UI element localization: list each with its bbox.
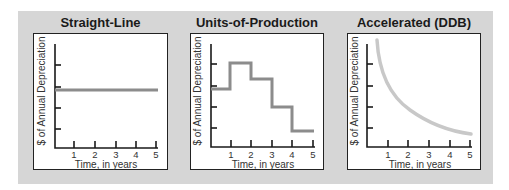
plot-area: $ of Annual Depreciation 1 2 3 xyxy=(347,33,481,170)
x-ticks xyxy=(231,140,313,147)
units-of-production-series xyxy=(211,63,314,131)
chart-title: Units-of-Production xyxy=(190,15,324,30)
plot-area: $ of Annual Depreciation 1 2 3 xyxy=(190,33,324,170)
y-ticks xyxy=(367,64,373,128)
chart-straight-line: Straight-Line $ of Annual Depreciation xyxy=(33,11,168,184)
y-axis-label: $ of Annual Depreciation xyxy=(192,37,203,146)
axes xyxy=(55,44,158,148)
chart-panel: Straight-Line $ of Annual Depreciation xyxy=(18,11,493,184)
plot-svg: $ of Annual Depreciation 1 2 3 xyxy=(348,34,482,171)
x-tick-label: 5 xyxy=(153,149,158,160)
y-ticks xyxy=(55,65,61,129)
plot-svg: $ of Annual Depreciation 1 2 3 xyxy=(191,34,325,171)
chart-units-of-production: Units-of-Production $ of Annual Deprecia… xyxy=(190,11,324,184)
x-tick-label: 5 xyxy=(310,149,315,160)
chart-accelerated-ddb: Accelerated (DDB) $ of Annual Depreciati… xyxy=(347,11,481,184)
x-axis-label: Time, in years xyxy=(75,159,137,170)
ddb-curve-series xyxy=(377,40,471,134)
x-tick-label: 5 xyxy=(467,149,472,160)
chart-title: Accelerated (DDB) xyxy=(347,15,481,30)
chart-title: Straight-Line xyxy=(33,15,168,30)
x-ticks xyxy=(74,141,156,148)
x-axis-label: Time, in years xyxy=(389,159,451,170)
y-axis-label: $ of Annual Depreciation xyxy=(349,37,360,146)
x-axis-label: Time, in years xyxy=(232,159,294,170)
plot-area: $ of Annual Depreciation 1 2 3 xyxy=(33,33,168,170)
plot-svg: $ of Annual Depreciation 1 2 3 xyxy=(34,34,169,171)
x-ticks xyxy=(388,140,470,147)
y-ticks xyxy=(211,64,217,128)
y-axis-label: $ of Annual Depreciation xyxy=(36,37,47,146)
